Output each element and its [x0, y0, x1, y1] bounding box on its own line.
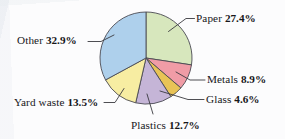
slice-label-metals: Metals 8.9% — [207, 74, 266, 85]
slice-label-plastics: Plastics 12.7% — [131, 120, 200, 131]
slice-label-paper-name: Paper — [196, 12, 222, 24]
slice-label-glass-name: Glass — [206, 93, 231, 105]
pie-slice-paper[interactable] — [146, 12, 192, 65]
slice-label-metals-name: Metals — [207, 73, 238, 85]
slice-label-plastics-name: Plastics — [131, 119, 166, 131]
slice-label-plastics-value: 12.7% — [169, 119, 200, 131]
slice-label-other-name: Other — [17, 34, 43, 46]
slice-label-metals-value: 8.9% — [241, 73, 266, 85]
pie-slice-group — [100, 12, 192, 104]
slice-label-other: Other 32.9% — [17, 35, 77, 46]
slice-label-yard-waste-name: Yard waste — [14, 96, 65, 108]
slice-label-glass-value: 4.6% — [234, 93, 259, 105]
pie-chart-figure: Paper 27.4% Metals 8.9% Glass 4.6% Plast… — [0, 0, 285, 139]
slice-label-glass: Glass 4.6% — [206, 94, 259, 105]
slice-label-paper: Paper 27.4% — [196, 13, 256, 24]
slice-label-other-value: 32.9% — [46, 34, 77, 46]
slice-label-yard-waste-value: 13.5% — [67, 96, 98, 108]
slice-label-yard-waste: Yard waste 13.5% — [14, 97, 98, 108]
slice-label-paper-value: 27.4% — [225, 12, 256, 24]
